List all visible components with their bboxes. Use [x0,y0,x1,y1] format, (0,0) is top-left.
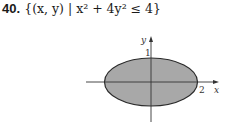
x-axis-arrow-icon [213,80,219,84]
ellipse-figure: x y 2 1 [0,0,230,123]
x-intercept-label: 2 [199,85,205,95]
y-intercept-label: 1 [145,48,151,58]
y-axis-arrow-icon [149,36,153,42]
x-axis-label: x [214,85,219,95]
y-axis-label: y [140,35,147,45]
